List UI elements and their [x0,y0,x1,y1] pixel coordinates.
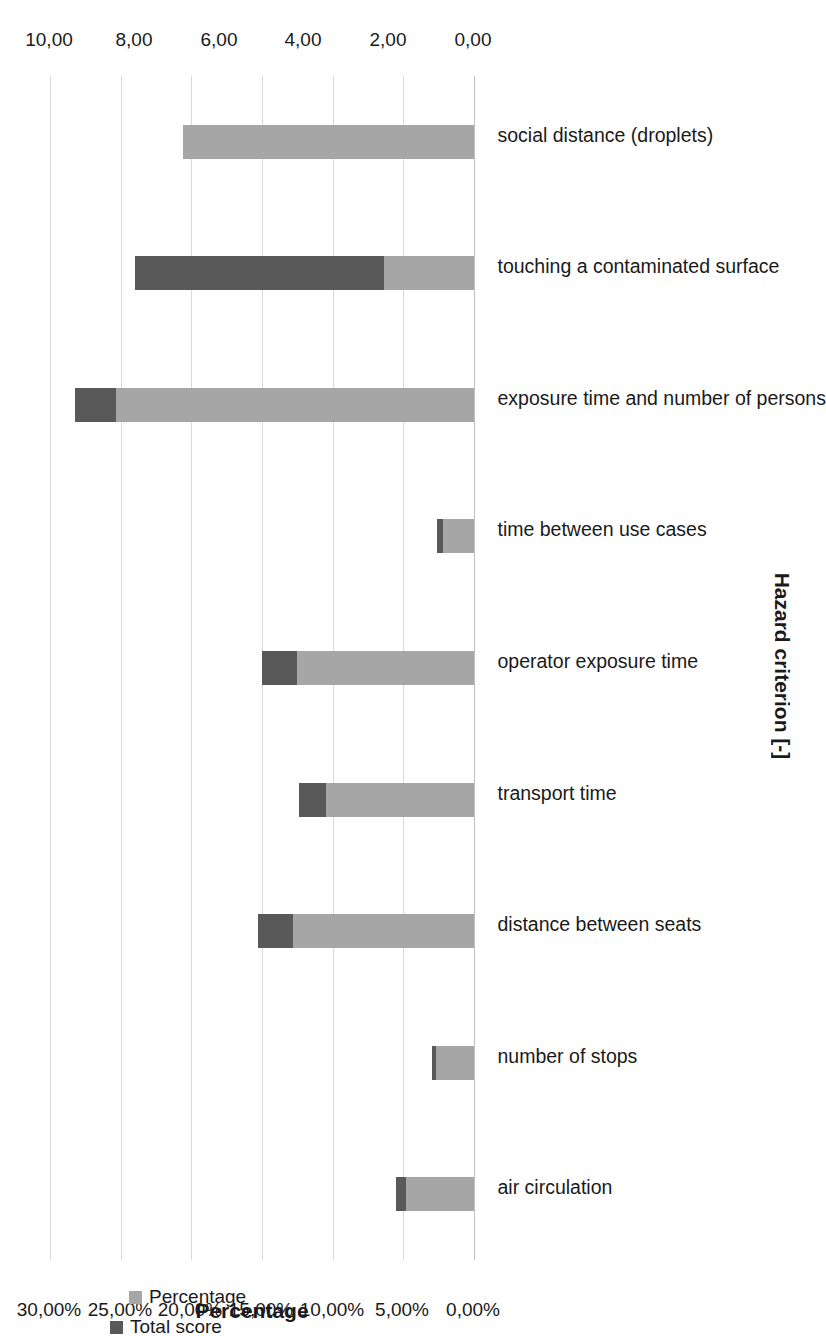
bar-segment-percentage [297,651,474,685]
bar-transport-time[interactable] [50,783,474,817]
bar-segment-percentage [326,783,474,817]
bar-operator-exposure-time[interactable] [50,651,474,685]
bar-touching-a-contaminated-surface[interactable] [50,256,474,290]
legend-swatch-icon [110,1321,123,1334]
legend-item[interactable]: Percentage [129,1286,246,1308]
category-label: touching a contaminated surface [498,255,780,278]
bar-segment-percentage [384,256,474,290]
total-score-tick-label: 6,00 [179,29,259,51]
bar-distance-between-seats[interactable] [50,914,474,948]
bar-segment-percentage [116,388,474,422]
bar-number-of-stops[interactable] [50,1046,474,1080]
category-label: number of stops [498,1044,638,1067]
bar-air-circulation[interactable] [50,1177,474,1211]
total-score-tick-label: 8,00 [94,29,174,51]
hazard-criterion-axis-title: Hazard criterion [-] [770,526,794,806]
bar-segment-total-score [135,256,384,290]
category-label: social distance (droplets) [498,123,714,146]
category-label: time between use cases [498,518,707,541]
value-axis-baseline [474,76,475,1260]
bar-segment-total-score [258,914,293,948]
percentage-tick-label: 30,00% [1,1299,97,1321]
category-label: air circulation [498,1176,613,1199]
bar-segment-total-score [299,783,326,817]
bar-segment-total-score [75,388,116,422]
total-score-tick-label: 0,00 [433,29,513,51]
bar-segment-percentage [183,125,474,159]
legend-item[interactable]: Total score [110,1316,227,1336]
category-label: exposure time and number of persons [498,386,826,409]
bar-segment-percentage [436,1046,474,1080]
bar-segment-percentage [406,1177,474,1211]
bar-segment-total-score [396,1177,406,1211]
legend-label: Percentage [149,1286,246,1308]
total-score-axis-title: Total score [-] [167,0,337,1]
legend-label: Total score [130,1316,222,1336]
bar-segment-total-score [262,651,297,685]
bar-time-between-use-cases[interactable] [50,519,474,553]
bar-segment-percentage [443,519,474,553]
bar-exposure-time-and-number-of-persons[interactable] [50,388,474,422]
category-label: distance between seats [498,913,702,936]
plot-area [50,76,474,1260]
total-score-tick-label: 10,00 [9,29,89,51]
legend-swatch-icon [129,1291,142,1304]
category-label: transport time [498,781,617,804]
bar-social-distance-droplets-[interactable] [50,125,474,159]
total-score-tick-label: 2,00 [348,29,428,51]
category-label: operator exposure time [498,650,699,673]
bar-segment-percentage [293,914,474,948]
total-score-tick-label: 4,00 [263,29,343,51]
